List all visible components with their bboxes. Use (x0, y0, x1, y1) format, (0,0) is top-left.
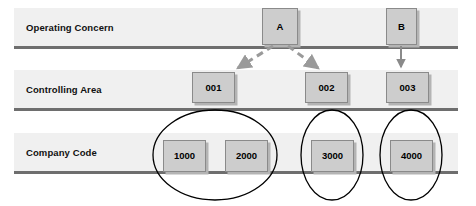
band-label-company-code: Company Code (26, 147, 97, 158)
node-operating-concern-b[interactable]: B (386, 8, 417, 45)
node-label: B (398, 22, 405, 32)
node-label: 1000 (174, 151, 195, 161)
node-operating-concern-a[interactable]: A (262, 8, 298, 45)
node-label: 001 (206, 83, 222, 93)
node-company-code-4000[interactable]: 4000 (390, 140, 433, 172)
node-controlling-area-001[interactable]: 001 (192, 72, 235, 103)
node-label: 002 (319, 83, 335, 93)
node-company-code-2000[interactable]: 2000 (225, 140, 268, 172)
node-controlling-area-002[interactable]: 002 (305, 72, 348, 103)
node-label: 4000 (401, 151, 422, 161)
connector-a-to-001 (238, 46, 273, 68)
node-controlling-area-003[interactable]: 003 (386, 72, 429, 103)
node-label: 3000 (322, 151, 343, 161)
node-label: 2000 (236, 151, 257, 161)
connector-a-to-002 (288, 46, 318, 68)
node-label: 003 (400, 83, 416, 93)
band-label-controlling-area: Controlling Area (26, 84, 102, 95)
hierarchy-diagram: Operating Concern Controlling Area Compa… (0, 0, 476, 206)
node-company-code-3000[interactable]: 3000 (311, 140, 354, 172)
node-label: A (277, 22, 284, 32)
node-company-code-1000[interactable]: 1000 (163, 140, 206, 172)
band-label-operating-concern: Operating Concern (26, 22, 114, 33)
